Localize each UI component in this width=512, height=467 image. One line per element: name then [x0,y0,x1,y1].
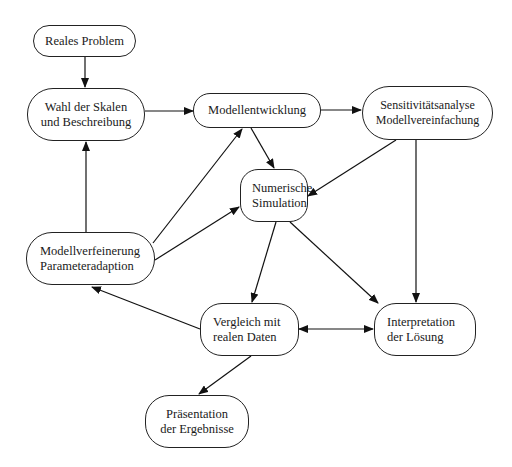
node-modellentwicklung: Modellentwicklung [193,93,321,128]
edge-vergleich-to-verfeinerung [92,287,200,329]
node-label: realen Daten [213,330,277,345]
node-label: Modellvereinfachung [376,113,479,128]
node-label: Simulation [252,196,307,211]
node-interpretation: Interpretation der Lösung [374,303,476,356]
node-label: Reales Problem [45,34,124,49]
node-label: Numerische [252,181,312,196]
node-label: Modellverfeinerung [40,244,140,259]
node-label: Interpretation [387,315,455,330]
node-label: Parameteradaption [40,259,134,274]
node-label: und Beschreibung [41,115,132,130]
node-praesentation: Präsentation der Ergebnisse [145,395,249,448]
node-label: Sensitivitätsanalyse [380,98,475,113]
node-label: der Lösung [387,330,444,345]
edge-simulation-to-interpretation [290,222,378,303]
node-numerische-simulation: Numerische Simulation [240,169,308,222]
node-modellverfeinerung: Modellverfeinerung Parameteradaption [26,232,155,285]
edge-verfeinerung-to-modellentwicklung [153,129,242,243]
node-label: Modellentwicklung [208,103,306,118]
node-vergleich: Vergleich mit realen Daten [200,303,299,356]
node-wahl-der-skalen: Wahl der Skalen und Beschreibung [27,88,145,141]
edge-simulation-to-vergleich [252,222,276,302]
edge-sensitivitaet-to-simulation [308,140,396,196]
node-label: Präsentation [166,407,228,422]
edge-verfeinerung-to-simulation [155,207,239,260]
node-sensitivitaetsanalyse: Sensitivitätsanalyse Modellvereinfachung [362,86,493,140]
node-label: Vergleich mit [213,315,280,330]
node-label: der Ergebnisse [160,422,234,437]
node-label: Wahl der Skalen [45,100,127,115]
edge-modellentwicklung-to-simulation [251,128,274,168]
node-reales-problem: Reales Problem [33,25,136,57]
edge-vergleich-to-praesentation [199,356,251,394]
